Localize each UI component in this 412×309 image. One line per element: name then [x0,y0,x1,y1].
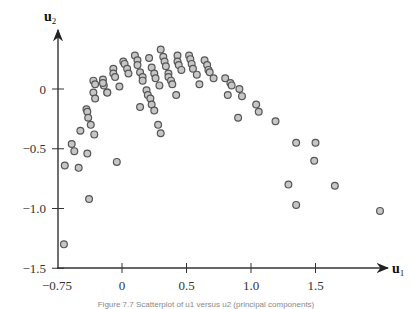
data-point [61,241,68,248]
data-point [285,181,292,188]
y-tick-label: 0 [40,82,47,97]
data-point [253,101,260,108]
data-point [113,158,120,165]
x-tick-label: −0.75 [42,278,72,293]
data-point [272,118,279,125]
y-tick-label: −0.5 [22,141,46,156]
data-point [311,157,318,164]
x-tick-label: 0.5 [178,278,194,293]
data-point [178,66,185,73]
data-point [312,139,319,146]
data-point [162,63,169,70]
figure-caption: Figure 7.7 Scatterplot of u1 versus u2 (… [0,300,412,309]
data-point [86,196,93,203]
data-point [239,93,246,100]
data-point [210,75,217,82]
data-point [157,46,164,53]
x-tick-label: 1.5 [307,278,323,293]
data-point [137,104,144,111]
data-point [196,81,203,88]
data-point [156,82,163,89]
data-point [61,162,68,169]
data-point [104,89,111,96]
scatter-plot: u2 u1 −0.7500.51.01.5 0−0.5−1.0−1.5 [0,0,412,309]
data-point [293,139,300,146]
data-point [92,95,99,102]
data-point [87,121,94,128]
data-point [293,202,300,209]
data-point [157,130,164,137]
data-point [169,81,176,88]
data-points [61,46,384,248]
x-tick-label: 1.0 [243,278,259,293]
data-point [377,207,384,214]
data-point [77,127,84,134]
data-point [85,114,92,121]
data-point [68,141,75,148]
data-point [331,182,338,189]
data-point [100,80,107,87]
data-point [235,114,242,121]
data-point [173,92,180,99]
data-point [116,83,123,90]
data-point [91,131,98,138]
data-point [71,148,78,155]
data-point [146,55,153,62]
data-point [236,86,243,93]
data-point [224,92,231,99]
x-tick-label: 0 [119,278,126,293]
data-point [155,121,162,128]
data-point [84,150,91,157]
y-tick-label: −1.5 [22,261,46,276]
data-point [193,71,200,78]
y-axis-title: u2 [44,9,56,26]
data-point [112,74,119,81]
data-point [125,70,132,77]
data-point [92,81,99,88]
data-point [151,107,158,114]
data-point [75,164,82,171]
x-axis-title: u1 [392,261,404,278]
data-point [228,82,235,89]
data-point [255,108,262,115]
y-tick-label: −1.0 [22,201,46,216]
data-point [152,75,159,82]
data-point [134,62,141,69]
data-point [139,77,146,84]
